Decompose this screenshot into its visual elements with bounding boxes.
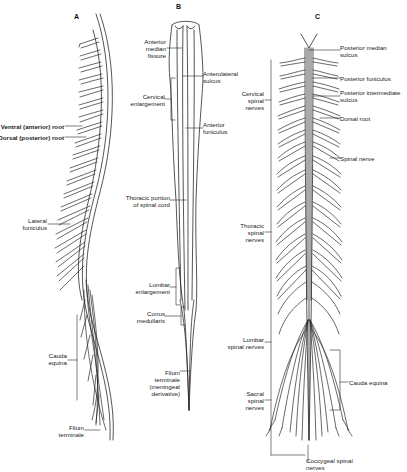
label-filum-terminale-a: Filum terminale (59, 424, 84, 438)
label-sacral-spinal-nerves: Sacral spinal nerves (245, 390, 264, 411)
label-posterior-intermediate-sulcus: Posterior intermediate sulcus (340, 89, 401, 103)
spinal-cord-figure: A B C Ventral (anterior) root Dorsal (po… (0, 0, 407, 472)
label-lumbar-spinal-nerves: Lumbar spinal nerves (228, 336, 264, 350)
label-cauda-equina-a: Cauda equina (48, 352, 67, 366)
label-filum-terminale-meningeal: Filum terminale (meningeal derivative) (149, 369, 180, 397)
panel-b-cord (169, 21, 203, 410)
label-anterior-median-fissure: Anterior median fissure (144, 38, 166, 59)
label-dorsal-root: Dorsal (posterior) root (0, 134, 64, 141)
label-posterior-funiculus: Posterior funiculus (340, 75, 391, 82)
label-anterior-funiculus: Anterior funiculus (203, 121, 227, 135)
label-coccygeal-spinal-nerves: Coccygeal spinal nerves (306, 457, 353, 471)
panel-c-leaders (265, 50, 348, 462)
label-cauda-equina-c: Cauda equina (349, 379, 388, 386)
label-dorsal-root-c: Dorsal root (340, 115, 370, 122)
panel-a-letter: A (74, 13, 79, 20)
panel-c-cord (301, 34, 317, 440)
label-anterolateral-sulcus: Anterolateral sulcus (203, 70, 238, 84)
label-lateral-funiculus: Lateral funiculus (23, 217, 47, 231)
label-thoracic-portion: Thoracic portion of spinal cord (126, 194, 170, 208)
label-spinal-nerve: Spinal nerve (340, 155, 374, 162)
label-conus-medullaris: Conus medullaris (137, 310, 165, 324)
panel-b-letter: B (176, 3, 181, 10)
label-thoracic-spinal-nerves: Thoracic spinal nerves (240, 222, 264, 243)
label-lumbar-enlargement: Lumbar enlargement (136, 281, 170, 295)
label-cervical-enlargement: Cervical enlargement (131, 93, 165, 107)
panel-c-letter: C (315, 13, 320, 20)
label-cervical-spinal-nerves: Cervical spinal nerves (242, 90, 264, 111)
panel-a-roots (55, 38, 106, 430)
label-posterior-median-sulcus: Posterior median sulcus (340, 44, 387, 58)
label-ventral-root: Ventral (anterior) root (1, 123, 64, 130)
